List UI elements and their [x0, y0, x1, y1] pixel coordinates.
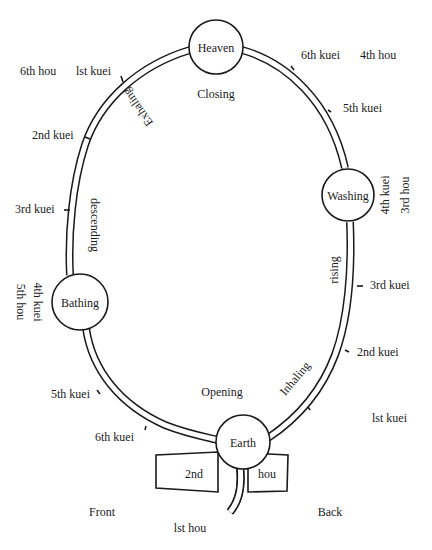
right-5th-kuei: 5th kuei: [343, 101, 383, 115]
right-1st-kuei: lst kuei: [372, 411, 408, 425]
phase-opening: Opening: [201, 385, 242, 399]
hou-2nd-right: hou: [258, 467, 276, 481]
left-5th-kuei: 5th kuei: [51, 387, 91, 401]
tick-marks: [64, 66, 363, 430]
node-washing-label: Washing: [327, 189, 369, 203]
node-bathing: Bathing: [52, 274, 108, 330]
node-earth-label: Earth: [230, 436, 256, 450]
hou-2nd-left: 2nd: [185, 467, 203, 481]
phase-rising: rising: [327, 256, 341, 283]
label-back: Back: [318, 505, 343, 519]
right-4th-kuei: 4th kuei: [378, 175, 392, 215]
left-1st-kuei: lst kuei: [76, 64, 112, 78]
node-heaven: Heaven: [189, 20, 243, 74]
node-earth: Earth: [216, 415, 270, 469]
phase-descending: descending: [88, 198, 102, 252]
left-6th-kuei: 6th kuei: [95, 430, 135, 444]
left-2nd-kuei: 2nd kuei: [32, 128, 74, 142]
hou-4th: 4th hou: [360, 48, 396, 62]
label-front: Front: [89, 505, 116, 519]
node-heaven-label: Heaven: [198, 41, 235, 55]
left-3rd-kuei: 3rd kuei: [15, 202, 55, 216]
right-2nd-kuei: 2nd kuei: [357, 345, 399, 359]
right-3rd-kuei: 3rd kuei: [370, 278, 410, 292]
phase-inhaling: Inhaling: [277, 359, 313, 399]
node-bathing-label: Bathing: [61, 296, 99, 310]
hou-5th: 5th hou: [14, 284, 28, 320]
hou-1st: lst hou: [174, 521, 206, 535]
hou-3rd: 3rd hou: [398, 177, 412, 214]
microcosmic-orbit-diagram: Heaven Washing Bathing Earth Closing Ope…: [0, 0, 432, 550]
left-4th-kuei: 4th kuei: [31, 283, 45, 323]
hou-6th: 6th hou: [20, 64, 56, 78]
node-washing: Washing: [322, 169, 374, 221]
phase-exhaling: Exhaling: [120, 86, 156, 130]
right-6th-kuei: 6th kuei: [301, 48, 341, 62]
phase-closing: Closing: [197, 87, 234, 101]
